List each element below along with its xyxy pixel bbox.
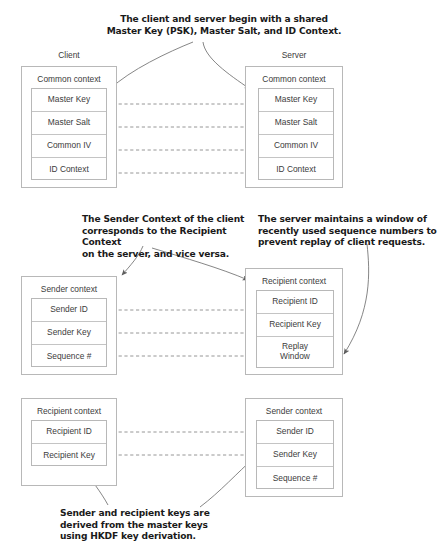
server-common-context-fields: Master Key Master Salt Common IV ID Cont… — [258, 88, 334, 180]
field-row[interactable]: Recipient ID — [257, 291, 333, 314]
field-row[interactable]: ID Context — [259, 158, 333, 181]
callout-key-derivation: Sender and recipient keys are derived fr… — [60, 508, 240, 543]
server-recipient-context-title: Recipient context — [246, 276, 342, 286]
client-recipient-context-fields: Recipient ID Recipient Key — [31, 420, 107, 466]
field-row[interactable]: Recipient Key — [32, 444, 106, 467]
field-row[interactable]: Common IV — [259, 135, 333, 158]
callout-shared-material: The client and server begin with a share… — [84, 14, 364, 37]
client-recipient-context-title: Recipient context — [22, 406, 116, 416]
field-row[interactable]: Sender Key — [32, 322, 106, 345]
field-row[interactable]: Master Key — [32, 89, 106, 112]
group-label-server: Server — [245, 50, 343, 60]
field-row[interactable]: Master Key — [259, 89, 333, 112]
arrow-shared-to-client — [110, 42, 193, 89]
callout-sender-recipient-correspondence: The Sender Context of the client corresp… — [82, 214, 260, 260]
field-row[interactable]: Sender ID — [257, 421, 333, 444]
client-common-context-title: Common context — [22, 74, 116, 84]
field-row[interactable]: Master Salt — [259, 112, 333, 135]
field-row[interactable]: Sender ID — [32, 299, 106, 322]
arrow-shared-to-server — [203, 42, 250, 89]
group-label-client: Client — [21, 50, 117, 60]
server-recipient-context-fields: Recipient ID Recipient Key Replay Window — [256, 290, 334, 368]
callout-replay-window: The server maintains a window of recentl… — [258, 214, 443, 249]
field-row[interactable]: Sequence # — [32, 345, 106, 368]
field-row[interactable]: Sender Key — [257, 444, 333, 467]
field-row-replay-window[interactable]: Replay Window — [257, 337, 333, 367]
field-row[interactable]: Common IV — [32, 135, 106, 158]
field-row[interactable]: Recipient ID — [32, 421, 106, 444]
field-row[interactable]: Sequence # — [257, 467, 333, 490]
field-row[interactable]: ID Context — [32, 158, 106, 181]
field-row[interactable]: Recipient Key — [257, 314, 333, 337]
field-row[interactable]: Master Salt — [32, 112, 106, 135]
client-common-context-fields: Master Key Master Salt Common IV ID Cont… — [31, 88, 107, 180]
server-sender-context-fields: Sender ID Sender Key Sequence # — [256, 420, 334, 489]
dashed-link-group — [107, 104, 258, 455]
arrow-replay-to-window — [344, 244, 369, 354]
client-sender-context-fields: Sender ID Sender Key Sequence # — [31, 298, 107, 367]
server-common-context-title: Common context — [246, 74, 342, 84]
server-sender-context-title: Sender context — [246, 406, 342, 416]
client-sender-context-title: Sender context — [22, 284, 116, 294]
